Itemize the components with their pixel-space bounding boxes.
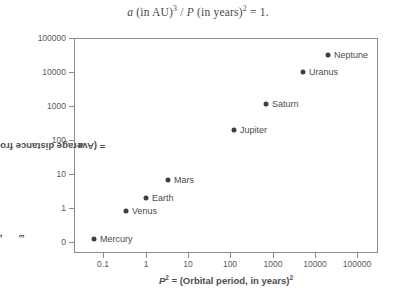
x-axis-tick-mark [188, 253, 189, 258]
x-axis-tick-mark [230, 253, 231, 258]
y-axis-tick-mark [69, 174, 74, 175]
x-axis-tick-label: 0.1 [97, 259, 109, 269]
x-axis-tick-label: 10000 [303, 259, 327, 269]
data-point-marker [144, 196, 149, 201]
data-point-label: Saturn [272, 99, 299, 109]
chart-title: a (in AU)3 / P (in years)2 = 1. [0, 6, 396, 18]
x-axis-title-rest: = (Orbital period, in years) [169, 275, 290, 286]
x-axis-tick-label: 100000 [343, 259, 371, 269]
x-axis-title: P2 = (Orbital period, in years)2 [74, 275, 378, 286]
y-axis-tick-mark [69, 106, 74, 107]
chart-title-p-symbol: P [187, 6, 194, 18]
y-axis-title-rest: = (Average distance from the Sun, in AU) [0, 140, 105, 151]
x-axis-tick-label: 100 [223, 259, 237, 269]
y-axis-tick-label: 1 [61, 203, 66, 213]
data-point-label: Neptune [334, 50, 368, 60]
data-point-marker [124, 209, 129, 214]
y-axis-tick-label: 100000 [38, 33, 66, 43]
x-axis-tick-mark [146, 253, 147, 258]
data-point-marker [301, 70, 306, 75]
x-axis-tick-label: 1 [144, 259, 149, 269]
y-axis-title-rest-exponent: 3 [18, 234, 25, 238]
data-point-label: Jupiter [240, 125, 267, 135]
y-axis-title-symbol-exponent: 3 [0, 234, 3, 238]
data-point-label: Mercury [100, 234, 133, 244]
chart-title-a-rest: (in AU) [133, 6, 173, 18]
y-axis-tick-label: 0 [61, 237, 66, 247]
x-axis-tick-label: 1000 [264, 259, 283, 269]
x-axis-title-rest-exponent: 2 [289, 274, 293, 281]
data-point-marker [92, 237, 97, 242]
y-axis-tick-mark [69, 38, 74, 39]
chart-figure: a (in AU)3 / P (in years)2 = 1. 10000010… [0, 0, 396, 296]
x-axis-tick-mark [357, 253, 358, 258]
data-point-label: Earth [152, 193, 174, 203]
y-axis-tick-label: 10000 [42, 67, 66, 77]
y-axis-tick-label: 1000 [47, 101, 66, 111]
data-point-marker [264, 102, 269, 107]
y-axis-tick-mark [69, 242, 74, 243]
y-axis-title: a3 = (Average distance from the Sun, in … [0, 38, 16, 253]
data-point-marker [166, 178, 171, 183]
chart-title-slash: / [177, 6, 187, 18]
data-point-label: Mars [174, 175, 194, 185]
y-axis-tick-label: 10 [57, 169, 66, 179]
x-axis-tick-mark [103, 253, 104, 258]
x-axis-tick-mark [315, 253, 316, 258]
data-point-label: Uranus [309, 67, 338, 77]
data-point-label: Venus [132, 206, 157, 216]
chart-title-equals: = 1. [247, 6, 269, 18]
x-axis-tick-label: 10 [183, 259, 192, 269]
data-point-marker [326, 53, 331, 58]
y-axis-tick-mark [69, 72, 74, 73]
x-axis-tick-mark [273, 253, 274, 258]
data-point-marker [232, 128, 237, 133]
y-axis-tick-mark [69, 208, 74, 209]
chart-title-p-rest: (in years) [194, 6, 243, 18]
